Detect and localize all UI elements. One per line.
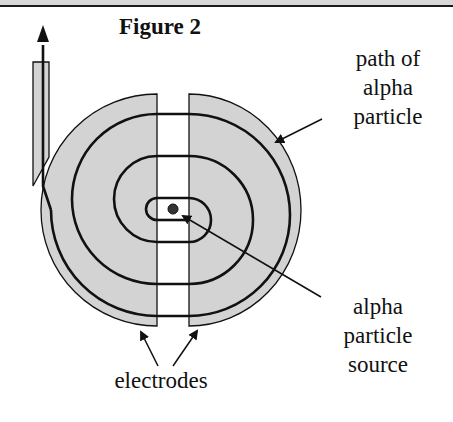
left-electrode (41, 94, 157, 326)
label-alpha-particle-source: alpha particle source (318, 292, 438, 379)
label-line: path of (328, 44, 448, 73)
alpha-source-dot (168, 204, 178, 214)
pointer-electrodes (141, 331, 197, 366)
label-electrodes: electrodes (96, 366, 226, 395)
pointer-path (276, 119, 322, 142)
exit-arrow-icon (37, 25, 49, 42)
label-line: particle (318, 321, 438, 350)
label-line: alpha (328, 73, 448, 102)
label-line: alpha (318, 292, 438, 321)
label-path-of-alpha-particle: path of alpha particle (328, 44, 448, 131)
right-electrode (189, 94, 301, 326)
label-line: particle (328, 102, 448, 131)
label-line: source (318, 350, 438, 379)
exit-channel (33, 62, 49, 186)
